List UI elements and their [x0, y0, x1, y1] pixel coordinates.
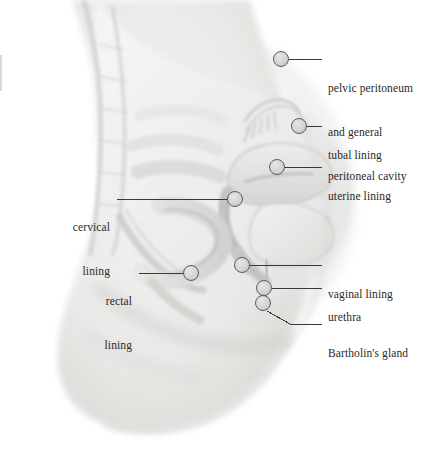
callout-label-line: lining — [78, 338, 132, 353]
callout-dot-tubal-lining[interactable] — [291, 118, 307, 134]
callout-label-uterine-lining: uterine lining — [328, 160, 391, 233]
callout-dot-vaginal-lining[interactable] — [234, 257, 250, 273]
callout-label-line: uterine lining — [328, 189, 391, 204]
callout-label-bartholins-gland: Bartholin's gland — [328, 317, 408, 390]
callout-dot-pelvic-peritoneum[interactable] — [273, 51, 289, 67]
callout-label-rectal-lining: rectal lining — [78, 265, 132, 382]
callout-label-line: Bartholin's gland — [328, 346, 408, 361]
callout-dot-bartholins-gland[interactable] — [255, 295, 271, 311]
callout-label-line: pelvic peritoneum — [328, 81, 413, 96]
callout-dot-cervical-lining[interactable] — [227, 191, 243, 207]
callout-dot-uterine-lining[interactable] — [269, 159, 285, 175]
callout-label-line: rectal — [78, 294, 132, 309]
callout-label-line: cervical — [20, 220, 110, 235]
anatomical-figure: pelvic peritoneum and general peritoneal… — [0, 0, 440, 468]
scan-edge-artifact — [0, 55, 3, 91]
callout-dot-rectal-lining[interactable] — [183, 265, 199, 281]
callout-dot-urethra[interactable] — [256, 280, 272, 296]
